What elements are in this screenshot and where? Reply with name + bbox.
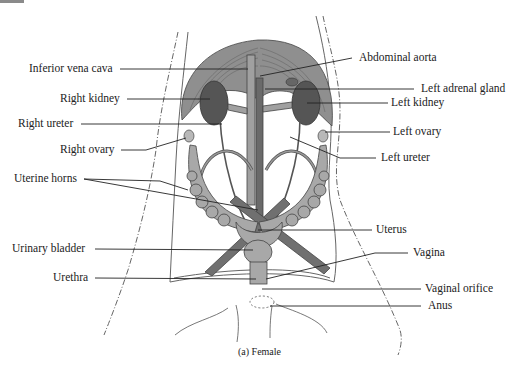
anatomy-illustration [0,0,519,379]
label-urinary-bladder: Urinary bladder [12,242,85,255]
label-urethra: Urethra [53,271,88,284]
anatomy-figure: Inferior vena cava Right kidney Right ur… [0,0,519,379]
label-left-adrenal-gland: Left adrenal gland [421,82,505,95]
label-right-kidney: Right kidney [60,92,120,105]
right-kidney-shape [200,81,228,125]
label-uterus: Uterus [376,223,407,236]
label-uterine-horns: Uterine horns [14,172,77,185]
label-vagina: Vagina [413,246,445,259]
label-right-ureter: Right ureter [18,117,73,130]
right-ovary-shape [184,130,194,142]
label-right-ovary: Right ovary [60,143,115,156]
left-adrenal-shape [286,78,298,86]
perineum [175,296,327,342]
label-abdominal-aorta: Abdominal aorta [359,51,437,64]
label-left-ovary: Left ovary [393,125,441,138]
label-left-ureter: Left ureter [381,151,430,164]
label-inferior-vena-cava: Inferior vena cava [29,62,113,75]
label-vaginal-orifice: Vaginal orifice [425,282,493,295]
figure-caption: (a) Female [0,346,519,357]
label-anus: Anus [428,299,452,312]
label-left-kidney: Left kidney [391,96,444,109]
